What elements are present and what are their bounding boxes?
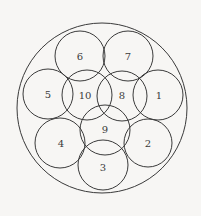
- circle-label-8: 8: [119, 91, 125, 101]
- circle-label-2: 2: [145, 139, 151, 149]
- diagram-svg: [0, 0, 201, 216]
- circle-label-4: 4: [58, 139, 64, 149]
- circle-label-10: 10: [79, 91, 92, 101]
- circle-label-3: 3: [100, 163, 106, 173]
- circle-label-6: 6: [77, 52, 83, 62]
- circle-label-9: 9: [102, 125, 108, 135]
- circle-label-1: 1: [156, 91, 162, 101]
- circle-label-7: 7: [125, 52, 131, 62]
- circle-diagram: 12345678910: [0, 0, 201, 216]
- circle-label-5: 5: [45, 90, 51, 100]
